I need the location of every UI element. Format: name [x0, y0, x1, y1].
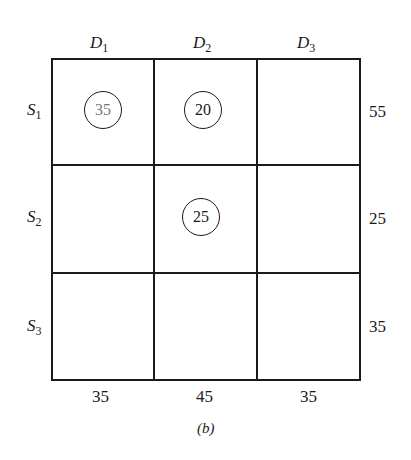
row-header-s1: S1 [27, 101, 42, 121]
demand-value-d3: 35 [300, 388, 317, 405]
row-divider [53, 164, 359, 166]
supply-value-s2: 25 [369, 210, 386, 227]
demand-value-d2: 45 [196, 388, 213, 405]
column-divider [256, 60, 258, 379]
row-header-s2: S2 [27, 208, 42, 228]
supply-value-s3: 35 [369, 318, 386, 335]
column-header-d2: D2 [193, 34, 211, 54]
column-divider [153, 60, 155, 379]
figure-caption: (b) [197, 421, 215, 436]
column-header-d3: D3 [297, 34, 315, 54]
demand-value-d1: 35 [92, 388, 109, 405]
allocation-s1-d2: 20 [184, 91, 222, 129]
allocation-s1-d1: 35 [84, 91, 122, 129]
column-header-d1: D1 [90, 34, 108, 54]
row-divider [53, 272, 359, 274]
row-header-s3: S3 [27, 317, 42, 337]
allocation-s2-d2: 25 [182, 198, 220, 236]
supply-value-s1: 55 [369, 103, 386, 120]
